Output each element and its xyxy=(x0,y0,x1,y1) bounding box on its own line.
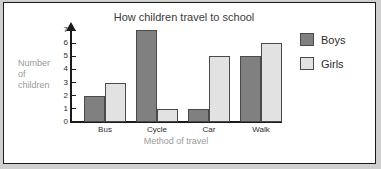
x-axis-tick-label-walk: Walk xyxy=(234,125,288,134)
legend-item-girls[interactable]: Girls xyxy=(300,57,372,70)
y-axis-tick-label: 6 xyxy=(64,38,68,47)
x-axis-tick-label-cycle: Cycle xyxy=(130,125,184,134)
y-axis-tick-label: 0 xyxy=(64,117,68,126)
bar-bus-boys xyxy=(84,96,105,122)
chart-frame: How children travel to school Number of … xyxy=(3,2,376,164)
y-axis-tick-label: 7 xyxy=(64,25,68,34)
bar-bus-girls xyxy=(105,83,126,122)
x-axis-tick-label-car: Car xyxy=(182,125,236,134)
x-axis-tick-label-bus: Bus xyxy=(78,125,132,134)
bar-cycle-boys xyxy=(136,30,157,122)
x-axis-label: Method of travel xyxy=(70,136,282,146)
bar-walk-girls xyxy=(261,43,282,122)
chart-legend: BoysGirls xyxy=(300,33,372,81)
legend-label-girls: Girls xyxy=(321,58,344,70)
y-axis-tick-label: 2 xyxy=(64,91,68,100)
y-axis-tick-label: 5 xyxy=(64,51,68,60)
bar-car-boys xyxy=(188,109,209,122)
chart-title: How children travel to school xyxy=(64,11,304,23)
bar-chart: How children travel to school Number of … xyxy=(4,3,377,165)
plot-area xyxy=(70,30,280,122)
y-axis-tick-label: 1 xyxy=(64,104,68,113)
bar-walk-boys xyxy=(240,56,261,122)
legend-swatch-boys xyxy=(300,33,314,46)
y-axis-tick-label: 4 xyxy=(64,64,68,73)
y-axis-label-line-1: Number xyxy=(18,58,66,69)
legend-swatch-girls xyxy=(300,57,314,70)
bar-car-girls xyxy=(209,56,230,122)
y-axis-label-line-2: of xyxy=(18,69,66,80)
y-axis-label: Number of children xyxy=(18,58,66,91)
legend-item-boys[interactable]: Boys xyxy=(300,33,372,46)
y-axis-tick-label: 3 xyxy=(64,78,68,87)
bar-cycle-girls xyxy=(157,109,178,122)
legend-label-boys: Boys xyxy=(321,34,345,46)
y-axis-label-line-3: children xyxy=(18,80,66,91)
